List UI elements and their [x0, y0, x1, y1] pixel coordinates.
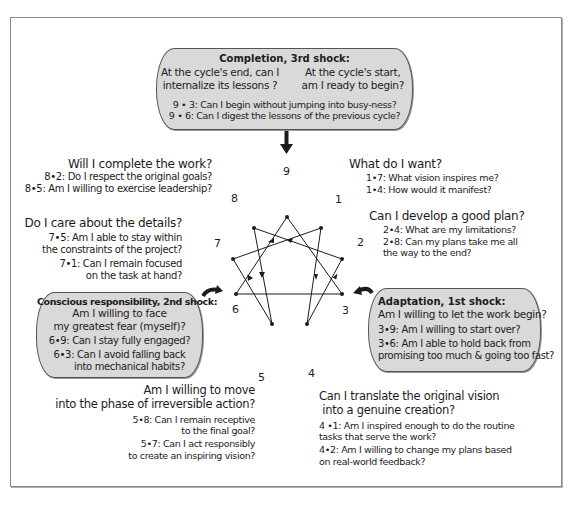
point-1-label: 1: [335, 193, 342, 206]
adaptation-title: Adaptation, 1st shock:: [378, 296, 540, 308]
adaptation-question: Am I willing to let the work begin?: [378, 308, 540, 321]
completion-left-question: At the cycle's end, can Iinternalize its…: [161, 66, 279, 91]
enneagram-lines: [233, 217, 342, 324]
conscious-item: into mechanical habits?: [37, 361, 202, 373]
point-8-text: Will I complete the work? 8•2: Do I resp…: [25, 157, 212, 195]
completion-shock-box: Completion, 3rd shock: At the cycle's en…: [156, 48, 413, 130]
point-3-label: 3: [342, 304, 349, 317]
adaptation-item: 3•6: Am I able to hold back from: [378, 338, 540, 350]
conscious-title: Conscious responsibility, 2nd shock:: [37, 296, 202, 307]
adaptation-item: 3•9: Am I willing to start over?: [378, 324, 540, 336]
point-6-label: 6: [232, 303, 239, 316]
down-arrow-icon: [280, 130, 293, 154]
completion-items: 9 • 3: Can I begin without jumping into …: [157, 99, 412, 122]
conscious-item: 6•9: Can I stay fully engaged?: [37, 335, 202, 347]
adaptation-shock-box: Adaptation, 1st shock: Am I willing to l…: [368, 288, 541, 372]
point-9-label: 9: [283, 165, 290, 178]
point-2-label: 2: [357, 236, 364, 249]
point-5-label: 5: [258, 371, 265, 384]
conscious-question: Am I willing to facemy greatest fear (my…: [37, 307, 202, 332]
adaptation-item: promising too much & going too fast?: [378, 350, 540, 362]
point-7-text: Do I care about the details? 7•5: Am I a…: [25, 216, 182, 282]
completion-right-question: At the cycle's start,am I ready to begin…: [302, 66, 404, 91]
point-8-label: 8: [231, 192, 238, 205]
point-7-label: 7: [214, 237, 221, 250]
completion-title: Completion, 3rd shock:: [157, 53, 412, 65]
conscious-shock-box: Conscious responsibility, 2nd shock: Am …: [36, 292, 203, 378]
point-2-text: Can I develop a good plan? 2•4: What are…: [369, 209, 524, 259]
point-4-text: Can I translate the original vision into…: [319, 390, 515, 467]
point-4-label: 4: [308, 367, 315, 380]
point-5-text: Am I willing to move into the phase of i…: [55, 384, 255, 461]
point-1-text: What do I want? 1•7: What vision inspire…: [349, 157, 498, 195]
vertex-dots: [231, 215, 344, 326]
conscious-item: 6•3: Can I avoid falling back: [37, 349, 202, 361]
